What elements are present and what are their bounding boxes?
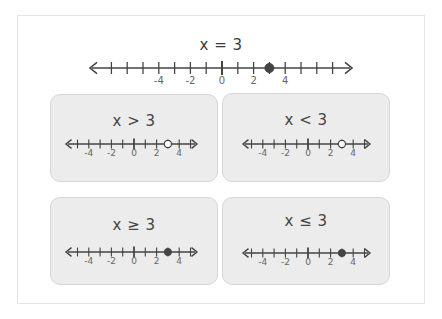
tick-label: -2 bbox=[107, 148, 116, 158]
tick-label: -2 bbox=[281, 148, 290, 158]
tick-label: 0 bbox=[131, 148, 137, 158]
tick-label: -4 bbox=[258, 257, 267, 267]
tick-label: -4 bbox=[84, 256, 93, 266]
tick-label: 4 bbox=[176, 148, 182, 158]
card-number-line-2: -4-2024 bbox=[66, 247, 197, 267]
tick-label: -4 bbox=[258, 148, 267, 158]
tick-label: 4 bbox=[350, 148, 356, 158]
tick-label: 4 bbox=[350, 257, 356, 267]
card-number-line-1: -4-2024 bbox=[243, 139, 370, 159]
tick-label: 0 bbox=[131, 256, 137, 266]
card-number-line-0: -4-2024 bbox=[66, 139, 197, 159]
tick-label: -2 bbox=[281, 257, 290, 267]
tick-label: 0 bbox=[305, 257, 311, 267]
tick-label: -4 bbox=[84, 148, 93, 158]
closed-point-icon bbox=[338, 249, 345, 256]
tick-label: 2 bbox=[154, 256, 160, 266]
tick-label: 2 bbox=[154, 148, 160, 158]
card-number-lines: -4-2024-4-2024-4-2024-4-2024 bbox=[0, 0, 442, 319]
tick-label: 0 bbox=[305, 148, 311, 158]
tick-label: 2 bbox=[328, 148, 334, 158]
tick-label: 2 bbox=[328, 257, 334, 267]
card-number-line-3: -4-2024 bbox=[243, 248, 370, 268]
open-point-icon bbox=[338, 140, 345, 147]
tick-label: 4 bbox=[176, 256, 182, 266]
open-point-icon bbox=[164, 140, 171, 147]
closed-point-icon bbox=[164, 248, 171, 255]
tick-label: -2 bbox=[107, 256, 116, 266]
